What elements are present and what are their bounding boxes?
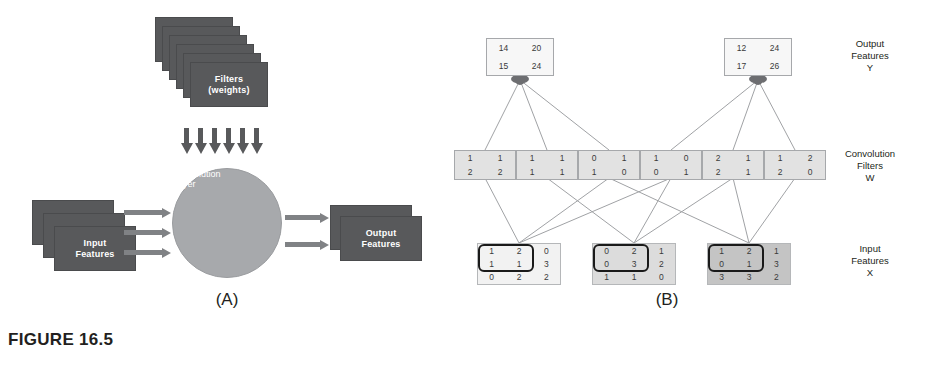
cell: 2 [505,271,532,284]
output-label-line2: Features [361,239,400,249]
label-output-features-y: Output Features Y [820,38,920,74]
cell: 1 [505,257,532,270]
cell: 2 [485,165,515,179]
cell: 1 [593,271,620,284]
label-line: Y [867,62,873,73]
filter-matrix-w23: 1 2 2 0 [764,150,826,180]
input-label-line2: Features [75,249,114,259]
right-arrow [285,213,330,222]
input-features-label: Input Features [55,238,135,260]
filter-matrix-w13: 0 1 1 0 [578,150,640,180]
cell: 0 [648,271,675,284]
cell: 3 [708,271,735,284]
cell: 15 [487,57,520,75]
output-card-front: Output Features [340,216,422,261]
cell: 14 [487,39,520,57]
cell: 3 [763,257,790,270]
cell: 1 [763,244,790,257]
cell: 0 [533,244,560,257]
filters-card-label: Filters (weights) [191,74,267,96]
cell: 17 [725,57,758,75]
cell: 1 [547,151,577,165]
cell: 0 [593,257,620,270]
conv-label-line1: Convolution [173,169,221,179]
panel-b-letter: (B) [622,290,712,310]
cell: 2 [620,244,647,257]
figure-caption: FIGURE 16.5 [8,330,113,350]
cell: 3 [735,271,762,284]
cell: 1 [708,244,735,257]
right-arrow [124,228,172,237]
label-line: Convolution [845,148,895,159]
cell: 2 [703,165,733,179]
cell: 1 [478,244,505,257]
cell: 2 [735,244,762,257]
cell: 1 [733,165,763,179]
cell: 2 [533,271,560,284]
down-arrow [210,128,219,154]
input-features-stack: Input Features [32,200,137,272]
label-line: Features [851,255,889,266]
cell: 1 [765,151,795,165]
cell: 1 [735,257,762,270]
cell: 0 [579,151,609,165]
input-matrix-x2: 0 2 1 0 3 2 1 1 0 [592,243,676,285]
input-matrix-x3: 1 2 1 0 1 3 3 3 2 [707,243,791,285]
cell: 1 [579,165,609,179]
cell: 0 [708,257,735,270]
filter-card-front: Filters (weights) [190,62,268,107]
cell: 2 [648,257,675,270]
cell: 2 [763,271,790,284]
cell: 1 [671,165,701,179]
filter-matrix-w11: 1 1 2 2 [454,150,516,180]
convolution-layer-label: Convolution Layer [173,169,281,189]
cell: 1 [648,244,675,257]
panel-b-conv-dataflow: 14 20 15 24 12 24 17 26 1 1 2 2 [462,0,925,320]
cell: 1 [547,165,577,179]
filters-label-line1: Filters [215,74,243,84]
output-matrix-y1: 14 20 15 24 [486,38,554,76]
cell: 0 [671,151,701,165]
cell: 1 [609,151,639,165]
cell: 1 [620,271,647,284]
label-line: Features [851,50,889,61]
cell: 3 [533,257,560,270]
panel-a-conv-layer-overview: Filters (weights) Convolution Layer [0,0,462,320]
cell: 2 [765,165,795,179]
cell: 0 [609,165,639,179]
label-line: Input [859,243,880,254]
panel-a-letter: (A) [182,290,272,310]
filters-label-line2: (weights) [208,85,249,95]
cell: 2 [455,165,485,179]
label-line: W [866,172,875,183]
cell: 0 [641,165,671,179]
down-arrow [238,128,247,154]
figure-16-5: Filters (weights) Convolution Layer [0,0,925,367]
filter-matrix-w12: 1 1 1 1 [516,150,578,180]
filters-stack: Filters (weights) [155,17,275,127]
filter-matrix-w22: 2 1 2 1 [702,150,764,180]
label-input-features-x: Input Features X [820,243,920,279]
cell: 1 [641,151,671,165]
cell: 2 [505,244,532,257]
cell: 20 [520,39,553,57]
right-arrow [124,208,172,217]
label-line: X [867,267,873,278]
down-arrow [224,128,233,154]
down-arrow [252,128,261,154]
cell: 3 [620,257,647,270]
cell: 0 [593,244,620,257]
down-arrow [196,128,205,154]
filter-matrix-w21: 1 0 0 1 [640,150,702,180]
label-line: Filters [857,160,883,171]
down-arrow [182,128,191,154]
cell: 2 [703,151,733,165]
cell: 26 [758,57,791,75]
cell: 24 [758,39,791,57]
input-matrix-x1: 1 2 0 1 1 3 0 2 2 [477,243,561,285]
label-line: Output [856,38,885,49]
convolution-layer-node: Convolution Layer [172,168,282,278]
conv-label-line2: Layer [173,179,196,189]
cell: 1 [478,257,505,270]
cell: 1 [517,151,547,165]
